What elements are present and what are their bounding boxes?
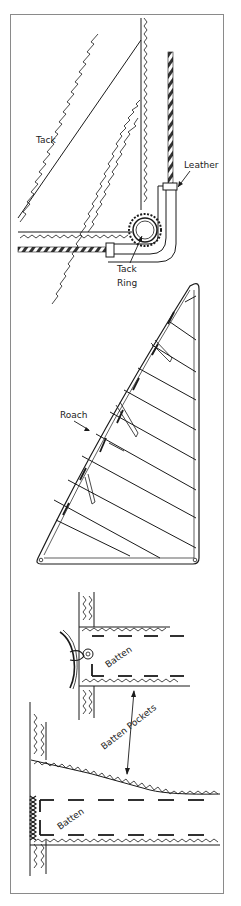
bolt-rope-foot bbox=[18, 247, 110, 252]
label-batten-upper: Batten bbox=[103, 644, 133, 669]
sail-construction-diagram: Tack Leather Tack Ring bbox=[0, 0, 241, 906]
diagonal-edge bbox=[18, 40, 141, 218]
batten-pockets-labels: Batten Batten Pockets Batten bbox=[55, 644, 158, 831]
tack-ring-stitching bbox=[129, 214, 161, 246]
label-tack-ring-line1: Tack bbox=[116, 264, 137, 274]
tack-corner-labels: Tack Leather Tack Ring bbox=[35, 135, 219, 288]
label-batten-lower: Batten bbox=[55, 806, 85, 831]
label-leather: Leather bbox=[184, 160, 219, 170]
leather-band-top bbox=[163, 183, 177, 190]
label-tack: Tack bbox=[35, 135, 56, 145]
sail-roach-panel bbox=[37, 284, 199, 564]
tack-ring bbox=[133, 218, 157, 242]
leather-band-left bbox=[106, 243, 114, 257]
label-batten-pockets: Batten Pockets bbox=[99, 702, 158, 751]
label-roach: Roach bbox=[60, 410, 88, 420]
sail-roach-labels: Roach bbox=[60, 410, 88, 420]
luff-zigzag bbox=[144, 18, 147, 202]
tack-corner-panel bbox=[18, 18, 190, 304]
label-tack-ring-line2: Ring bbox=[117, 278, 137, 288]
bolt-rope-luff bbox=[168, 52, 173, 187]
